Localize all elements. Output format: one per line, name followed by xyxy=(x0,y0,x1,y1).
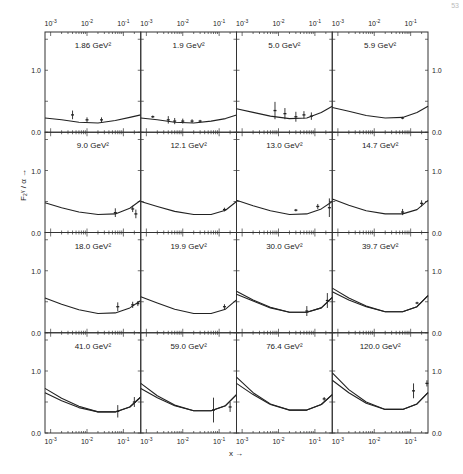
panel-1.86: 1.86 GeV² xyxy=(45,32,141,132)
x-tick-label-bottom: 10-2 xyxy=(368,436,380,445)
panel-label: 30.0 GeV² xyxy=(266,242,303,251)
panel-12.1: 12.1 GeV² xyxy=(141,132,237,232)
fit-curve xyxy=(237,106,333,118)
panel-30: 30.0 GeV² xyxy=(237,233,333,333)
panel-13: 13.0 GeV² xyxy=(237,132,333,232)
y-tick-label-left: 0.0 xyxy=(31,129,41,136)
x-axis-label: x → xyxy=(229,449,243,458)
x-tick-label-top: 10-3 xyxy=(140,18,152,27)
f2-gamma-figure: 1.86 GeV²1.9 GeV²5.0 GeV²5.9 GeV²9.0 GeV… xyxy=(0,0,463,474)
panel-9: 9.0 GeV² xyxy=(45,132,141,232)
fit-curve xyxy=(45,393,141,412)
x-tick-label-bottom: 10-2 xyxy=(177,436,189,445)
x-tick-label-bottom: 10-3 xyxy=(140,436,152,445)
panel-39.7: 39.7 GeV² xyxy=(332,233,428,333)
fit-curve xyxy=(45,115,141,123)
x-tick-label-bottom: 10-1 xyxy=(117,436,129,445)
x-tick-label-top: 10-2 xyxy=(272,18,284,27)
x-tick-label-bottom: 10-3 xyxy=(45,436,57,445)
y-tick-label-right: 0.0 xyxy=(432,330,442,337)
y-tick-label-right: 0.0 xyxy=(432,129,442,136)
panel-label: 39.7 GeV² xyxy=(362,242,399,251)
x-tick-label-top: 10-1 xyxy=(309,18,321,27)
x-tick-label-top: 10-3 xyxy=(332,18,344,27)
fit-curve xyxy=(332,106,428,118)
panel-label: 76.4 GeV² xyxy=(266,342,303,351)
x-tick-label-top: 10-1 xyxy=(213,18,225,27)
panel-41: 41.0 GeV² xyxy=(45,333,141,433)
panel-label: 1.86 GeV² xyxy=(75,41,112,50)
x-tick-label-bottom: 10-2 xyxy=(272,436,284,445)
fit-curve xyxy=(237,383,333,410)
y-tick-label-right: 0.0 xyxy=(432,430,442,437)
panel-76.4: 76.4 GeV² xyxy=(237,333,333,433)
fit-curve xyxy=(141,115,237,123)
fit-curve xyxy=(141,202,237,215)
panel-19.9: 19.9 GeV² xyxy=(141,233,237,333)
fit-curve xyxy=(45,298,141,314)
panel-5.9: 5.9 GeV² xyxy=(332,32,428,132)
x-tick-label-top: 10-2 xyxy=(177,18,189,27)
panel-1.9: 1.9 GeV² xyxy=(141,32,237,132)
y-tick-label-right: 0.0 xyxy=(432,230,442,237)
x-tick-label-top: 10-1 xyxy=(405,18,417,27)
x-tick-label-bottom: 10-3 xyxy=(332,436,344,445)
x-tick-label-top: 10-3 xyxy=(45,18,57,27)
x-tick-label-top: 10-2 xyxy=(81,18,93,27)
y-tick-label-right: 1.0 xyxy=(432,168,442,175)
y-tick-label-left: 1.0 xyxy=(31,67,41,74)
panel-label: 5.0 GeV² xyxy=(268,41,300,50)
fit-curve xyxy=(141,388,237,410)
fit-curve xyxy=(45,200,141,214)
panel-label: 12.1 GeV² xyxy=(170,141,207,150)
y-tick-label-left: 1.0 xyxy=(31,268,41,275)
x-tick-label-bottom: 10-3 xyxy=(236,436,248,445)
fit-curve xyxy=(332,292,428,312)
y-tick-label-left: 0.0 xyxy=(31,230,41,237)
x-tick-label-top: 10-3 xyxy=(236,18,248,27)
panel-label: 9.0 GeV² xyxy=(77,141,109,150)
x-tick-label-top: 10-1 xyxy=(117,18,129,27)
panel-5: 5.0 GeV² xyxy=(237,32,333,132)
y-tick-label-right: 1.0 xyxy=(432,268,442,275)
panel-label: 1.9 GeV² xyxy=(173,41,205,50)
panel-label: 19.9 GeV² xyxy=(170,242,207,251)
x-tick-label-bottom: 10-1 xyxy=(213,436,225,445)
panel-label: 120.0 GeV² xyxy=(360,342,401,351)
panel-label: 59.0 GeV² xyxy=(170,342,207,351)
panel-120: 120.0 GeV² xyxy=(332,333,428,433)
y-tick-label-right: 1.0 xyxy=(432,368,442,375)
x-tick-label-bottom: 10-1 xyxy=(309,436,321,445)
panel-59: 59.0 GeV² xyxy=(141,333,237,433)
panel-18: 18.0 GeV² xyxy=(45,233,141,333)
x-tick-label-top: 10-2 xyxy=(368,18,380,27)
panel-label: 13.0 GeV² xyxy=(266,141,303,150)
y-tick-label-left: 0.0 xyxy=(31,330,41,337)
y-tick-label-left: 1.0 xyxy=(31,368,41,375)
y-tick-label-right: 1.0 xyxy=(432,67,442,74)
fit-curve xyxy=(332,199,428,214)
fit-curve xyxy=(141,297,237,314)
x-tick-label-bottom: 10-2 xyxy=(81,436,93,445)
x-tick-label-bottom: 10-1 xyxy=(405,436,417,445)
fit-curve xyxy=(237,294,333,312)
y-tick-label-left: 0.0 xyxy=(31,430,41,437)
panel-label: 18.0 GeV² xyxy=(75,242,112,251)
y-tick-label-left: 1.0 xyxy=(31,168,41,175)
y-axis-label: F₂ᵞ / α → xyxy=(19,169,28,201)
panel-label: 14.7 GeV² xyxy=(362,141,399,150)
panel-label: 41.0 GeV² xyxy=(75,342,112,351)
panel-label: 5.9 GeV² xyxy=(364,41,396,50)
panel-14.7: 14.7 GeV² xyxy=(332,132,428,232)
